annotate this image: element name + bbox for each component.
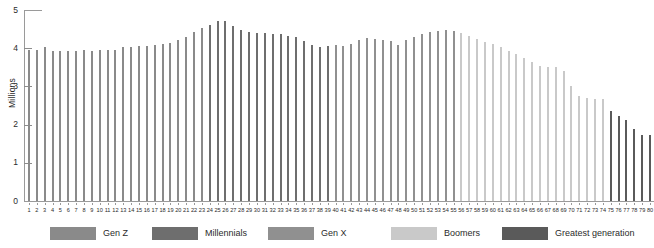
bar [382, 40, 384, 201]
x-axis-tick-mark [45, 203, 46, 205]
y-axis-tick-label: 3 [0, 81, 18, 91]
x-axis-tick-mark [391, 203, 392, 205]
bar [240, 30, 242, 201]
x-axis-tick-mark [92, 203, 93, 205]
x-axis-tick-mark [438, 203, 439, 205]
x-axis-tick-mark [336, 203, 337, 205]
x-axis-tick-mark [446, 203, 447, 205]
bar [280, 34, 282, 201]
x-axis-tick-mark [131, 203, 132, 205]
x-axis-tick-mark [320, 203, 321, 205]
bar [248, 32, 250, 201]
bar [484, 42, 486, 201]
x-axis-tick-mark [304, 203, 305, 205]
x-axis-tick-mark [501, 203, 502, 205]
x-axis-tick-mark [571, 203, 572, 205]
x-axis-tick-label: 80 [644, 206, 654, 214]
bar [287, 36, 289, 201]
x-axis-tick-mark [509, 203, 510, 205]
bar [107, 50, 109, 201]
x-axis-tick-mark [383, 203, 384, 205]
bar [547, 67, 549, 201]
x-axis-tick-mark [257, 203, 258, 205]
legend-item[interactable]: Boomers [391, 224, 480, 242]
bar [75, 51, 77, 202]
bar [335, 45, 337, 201]
x-axis-tick-mark [414, 203, 415, 205]
x-axis-tick-mark [186, 203, 187, 205]
bar [649, 135, 651, 201]
x-axis-tick-mark [626, 203, 627, 205]
x-axis-tick-mark [516, 203, 517, 205]
bar [272, 34, 274, 201]
x-axis-tick-mark [281, 203, 282, 205]
x-axis-tick-mark [115, 203, 116, 205]
x-axis-tick-mark [603, 203, 604, 205]
legend-item[interactable]: Greatest generation [502, 224, 635, 242]
x-axis-tick-mark [218, 203, 219, 205]
bar [295, 37, 297, 201]
bar [578, 96, 580, 201]
bar [303, 41, 305, 201]
legend-item[interactable]: Millennials [152, 224, 247, 242]
bar [122, 47, 124, 201]
x-axis-tick-mark [76, 203, 77, 205]
x-axis-tick-mark [328, 203, 329, 205]
x-axis-tick-mark [108, 203, 109, 205]
x-axis-tick-mark [422, 203, 423, 205]
bar [59, 51, 61, 201]
y-axis-tick-label: 4 [0, 43, 18, 53]
bar [390, 41, 392, 201]
bar [209, 25, 211, 201]
x-axis-tick-mark [351, 203, 352, 205]
bar [185, 37, 187, 201]
bar [374, 39, 376, 201]
x-axis-tick-mark [469, 203, 470, 205]
bar [224, 21, 226, 201]
plot-area [25, 10, 654, 201]
x-axis-tick-mark [296, 203, 297, 205]
x-axis-tick-mark [359, 203, 360, 205]
bar [366, 38, 368, 201]
x-axis-tick-mark [273, 203, 274, 205]
bar [311, 45, 313, 201]
legend-item[interactable]: Gen Z [50, 224, 128, 242]
x-axis-tick-mark [556, 203, 557, 205]
x-axis-tick-mark [406, 203, 407, 205]
legend-label: Gen Z [103, 227, 128, 240]
bar [563, 71, 565, 201]
bar [36, 50, 38, 201]
bar [437, 31, 439, 201]
bar [594, 99, 596, 201]
x-axis-tick-mark [343, 203, 344, 205]
bar [256, 33, 258, 201]
bar [397, 45, 399, 201]
x-axis-tick-mark [170, 203, 171, 205]
bar [44, 47, 46, 201]
x-axis-line [24, 201, 654, 202]
bar [91, 51, 93, 202]
y-axis-tick-label: 0 [0, 196, 18, 206]
x-axis-tick-mark [288, 203, 289, 205]
bar [602, 99, 604, 201]
bar [492, 44, 494, 201]
bar [162, 44, 164, 201]
bar [539, 66, 541, 201]
x-axis-tick-mark [642, 203, 643, 205]
bar [138, 46, 140, 201]
x-axis-tick-mark [163, 203, 164, 205]
x-axis-tick-mark [619, 203, 620, 205]
bar [429, 32, 431, 201]
bar [460, 33, 462, 201]
bar [523, 58, 525, 201]
x-axis-tick-mark [650, 203, 651, 205]
x-axis-tick-mark [367, 203, 368, 205]
bar [618, 116, 620, 201]
bar [531, 62, 533, 201]
bar [476, 39, 478, 201]
legend-item[interactable]: Gen X [268, 224, 347, 242]
x-axis-tick-mark [532, 203, 533, 205]
bar [232, 26, 234, 201]
bar [508, 51, 510, 202]
x-axis-tick-mark [430, 203, 431, 205]
